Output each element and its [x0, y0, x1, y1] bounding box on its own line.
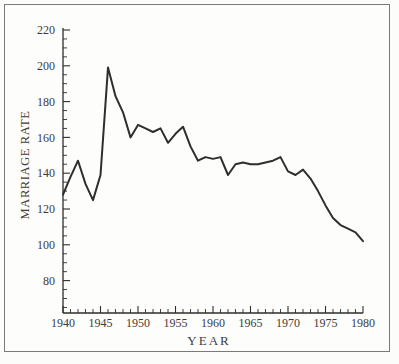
y-tick-label: 120	[37, 202, 55, 216]
x-tick-label: 1965	[239, 316, 263, 330]
x-axis	[63, 306, 363, 313]
y-axis-label: MARRIAGE RATE	[18, 111, 33, 220]
y-tick-label: 100	[37, 238, 55, 252]
x-tick-label: 1940	[51, 316, 75, 330]
y-tick-label: 200	[37, 59, 55, 73]
x-tick-labels: 194019451950195519601965197019751980	[51, 316, 375, 330]
x-axis-label: YEAR	[187, 333, 230, 349]
y-tick-label: 220	[37, 23, 55, 37]
x-tick-label: 1960	[201, 316, 225, 330]
y-tick-label: 180	[37, 95, 55, 109]
marriage-rate-polyline	[63, 68, 363, 242]
y-tick-label: 140	[37, 166, 55, 180]
marriage-rate-line	[63, 68, 363, 242]
y-tick-label: 160	[37, 131, 55, 145]
x-tick-label: 1975	[314, 316, 338, 330]
x-tick-label: 1970	[276, 316, 300, 330]
x-tick-label: 1945	[89, 316, 113, 330]
x-tick-label: 1980	[351, 316, 375, 330]
y-axis	[63, 28, 70, 313]
chart-canvas: 22020018016014012010080 1940194519501955…	[0, 0, 399, 364]
x-tick-label: 1955	[164, 316, 188, 330]
y-tick-labels: 22020018016014012010080	[37, 23, 55, 288]
y-tick-label: 80	[43, 274, 55, 288]
x-tick-label: 1950	[126, 316, 150, 330]
